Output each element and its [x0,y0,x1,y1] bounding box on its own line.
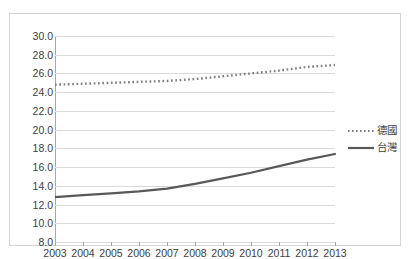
x-axis-tick [195,242,196,246]
y-axis-tick-label: 30.0 [13,31,53,42]
x-axis-tick [83,242,84,246]
x-axis-tick [279,242,280,246]
y-axis-tick-labels: 30.028.026.024.022.020.018.016.014.012.0… [10,14,53,259]
x-axis-tick [251,242,252,246]
y-axis-tick-label: 18.0 [13,143,53,154]
y-axis-tick-label: 12.0 [13,200,53,211]
y-axis-tick-label: 22.0 [13,106,53,117]
y-axis-tick-label: 26.0 [13,68,53,79]
x-axis-tick [307,242,308,246]
x-axis-tick [55,242,56,246]
legend-item-taiwan[interactable]: 台灣 [348,139,412,156]
series-line-taiwan [55,154,335,197]
y-axis-tick-label: 8.0 [13,237,53,248]
x-axis-tick [139,242,140,246]
x-axis-tick [111,242,112,246]
solid-line-key [348,143,374,153]
legend-label-taiwan: 台灣 [377,142,397,153]
y-axis-tick-label: 28.0 [13,50,53,61]
y-axis-tick-label: 16.0 [13,162,53,173]
chart-frame: 30.028.026.024.022.020.018.016.014.012.0… [9,13,401,246]
series-lines [55,36,336,243]
y-axis-tick-label: 14.0 [13,181,53,192]
y-axis-tick-label: 20.0 [13,125,53,136]
dotted-line-key [348,126,374,136]
series-line-germany [55,65,335,85]
y-axis-tick-label: 10.0 [13,218,53,229]
legend-item-germany[interactable]: 德國 [348,122,412,139]
chart-legend: 德國 台灣 [348,122,412,158]
x-axis-tick [223,242,224,246]
x-axis-tick [335,242,336,246]
x-axis-tick [167,242,168,246]
y-axis-tick-label: 24.0 [13,87,53,98]
x-axis-tick-label: 2013 [319,248,351,259]
legend-label-germany: 德國 [377,125,397,136]
